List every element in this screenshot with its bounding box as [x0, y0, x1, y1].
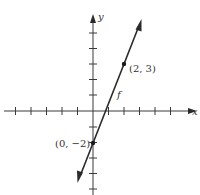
line-arrow-up-icon	[136, 19, 142, 32]
function-line-f	[77, 19, 142, 183]
point-0-neg2	[91, 141, 95, 145]
function-graph: y x f (2, 3) (0, −2)	[0, 0, 200, 195]
y-axis-label: y	[97, 11, 104, 22]
point-2-3	[122, 62, 126, 66]
line-arrow-down-icon	[77, 171, 83, 184]
y-axis	[89, 14, 97, 195]
point-label-0-neg2: (0, −2)	[55, 138, 90, 149]
y-axis-arrow-icon	[90, 14, 96, 23]
x-axis	[4, 107, 197, 115]
x-axis-label: x	[192, 106, 198, 117]
point-label-2-3: (2, 3)	[129, 63, 156, 74]
function-label: f	[116, 89, 123, 100]
